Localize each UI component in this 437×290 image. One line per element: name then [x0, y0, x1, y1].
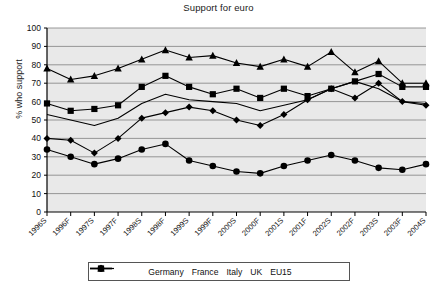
y-tick-label: 80	[32, 60, 42, 70]
y-tick-label: 90	[32, 41, 42, 51]
x-axis-ticks: 1996S1996F1997S1997F1998S1998F1999S1999F…	[27, 212, 428, 238]
legend-item-eu15[interactable]: EU15	[268, 267, 292, 277]
legend-item-label: Germany	[148, 267, 183, 277]
x-tick-label: 1997S	[74, 216, 96, 238]
x-tick-label: 1998F	[145, 216, 167, 238]
x-tick-label: 1999F	[193, 216, 215, 238]
y-axis-ticks: 0102030405060708090100	[27, 23, 41, 217]
y-tick-label: 100	[27, 23, 41, 33]
x-tick-label: 2004S	[406, 216, 428, 238]
x-tick-label: 1996S	[27, 216, 49, 238]
x-tick-label: 2003S	[358, 216, 380, 238]
legend-symbol-none	[89, 263, 115, 274]
legend-item-label: UK	[250, 267, 262, 277]
y-tick-label: 50	[32, 115, 42, 125]
y-tick-label: 30	[32, 152, 42, 162]
y-tick-label: 10	[32, 189, 42, 199]
x-tick-label: 1996F	[51, 216, 73, 238]
legend-item-germany[interactable]: Germany	[146, 267, 183, 277]
plot-svg: 0102030405060708090100 1996S1996F1997S19…	[0, 0, 437, 290]
x-tick-label: 1998S	[121, 216, 143, 238]
legend-item-italy[interactable]: Italy	[224, 267, 242, 277]
x-tick-label: 2003F	[382, 216, 404, 238]
legend-item-uk[interactable]: UK	[248, 267, 262, 277]
x-tick-label: 2001S	[263, 216, 285, 238]
y-tick-label: 20	[32, 170, 42, 180]
x-tick-label: 2001F	[287, 216, 309, 238]
legend-item-france[interactable]: France	[190, 267, 219, 277]
y-tick-label: 40	[32, 133, 42, 143]
x-tick-label: 2002S	[311, 216, 333, 238]
y-tick-label: 0	[36, 207, 41, 217]
legend-item-label: France	[192, 267, 219, 277]
x-tick-label: 1999S	[169, 216, 191, 238]
legend-item-label: Italy	[226, 267, 242, 277]
legend-item-label: EU15	[270, 267, 292, 277]
x-tick-label: 1997F	[98, 216, 120, 238]
chart-legend: GermanyFranceItalyUKEU15	[88, 262, 350, 281]
x-tick-label: 2000S	[216, 216, 238, 238]
y-tick-label: 60	[32, 97, 42, 107]
chart-container: Support for euro % who support 010203040…	[0, 0, 437, 290]
x-tick-label: 2000F	[240, 216, 262, 238]
x-tick-label: 2002F	[335, 216, 357, 238]
y-tick-label: 70	[32, 78, 42, 88]
